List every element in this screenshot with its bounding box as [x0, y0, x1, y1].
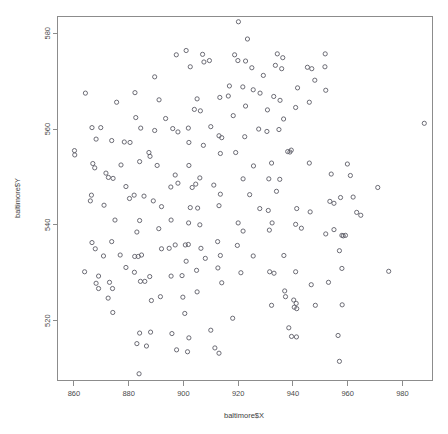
x-tick-label: 980	[396, 389, 409, 398]
plot-canvas: 860880900920940960980 520540560580 balti…	[0, 0, 448, 434]
scatter-plot-figure: 860880900920940960980 520540560580 balti…	[0, 0, 448, 434]
y-axis-title: baltimore$Y	[13, 178, 22, 218]
y-tick-label: 540	[43, 219, 52, 232]
x-tick-label: 900	[177, 389, 190, 398]
figure-background	[0, 0, 448, 434]
x-tick-label: 940	[287, 389, 300, 398]
x-tick-label: 880	[122, 389, 135, 398]
x-tick-label: 860	[68, 389, 81, 398]
y-tick-label: 560	[43, 123, 52, 136]
x-tick-label: 960	[341, 389, 354, 398]
y-tick-label: 580	[43, 27, 52, 40]
y-tick-label: 520	[43, 314, 52, 327]
x-tick-label: 920	[232, 389, 245, 398]
x-axis-title: baltimore$X	[224, 411, 264, 420]
